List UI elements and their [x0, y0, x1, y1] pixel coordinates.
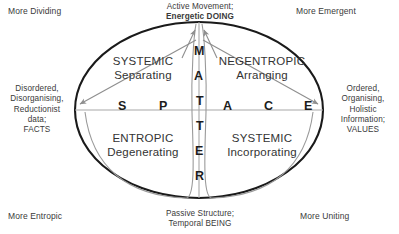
- space-letter-c: C: [264, 99, 273, 113]
- quadrant-top-left: SYSTEMIC Separating: [97, 54, 189, 83]
- label-right-middle: Ordered, Organising, Holistic Informatio…: [328, 84, 398, 135]
- quadrant-bottom-left: ENTROPIC Degenerating: [97, 131, 189, 160]
- label-left-line1: Disordered,: [2, 84, 72, 94]
- space-letter-a: A: [223, 99, 232, 113]
- label-top-center-line2: Energetic DOING: [139, 12, 261, 22]
- label-left-line3: Reductionist: [2, 105, 72, 115]
- quadrant-top-right: NEGENTROPIC Arranging: [211, 54, 313, 83]
- inner-curve-left: [85, 24, 196, 198]
- label-left-line5: FACTS: [2, 125, 72, 135]
- quadrant-top-left-title: SYSTEMIC: [97, 54, 189, 68]
- quadrant-top-right-subtitle: Arranging: [211, 68, 313, 82]
- label-right-line1: Ordered,: [328, 84, 398, 94]
- label-left-line4: data;: [2, 115, 72, 125]
- matter-letter-r: R: [195, 169, 204, 183]
- corner-label-top-right: More Emergent: [296, 6, 392, 17]
- label-right-line3: Holistic: [328, 105, 398, 115]
- label-right-line2: Organising,: [328, 94, 398, 104]
- quadrant-top-left-subtitle: Separating: [97, 68, 189, 82]
- quadrant-bottom-left-title: ENTROPIC: [97, 131, 189, 145]
- label-right-line5: VALUES: [328, 125, 398, 135]
- quadrant-top-right-title: NEGENTROPIC: [211, 54, 313, 68]
- label-left-line2: Disorganising,: [2, 94, 72, 104]
- matter-letter-t1: T: [196, 94, 204, 108]
- corner-label-top-left: More Dividing: [8, 6, 104, 17]
- quadrant-bottom-left-subtitle: Degenerating: [97, 145, 189, 159]
- label-bottom-center-line2: Temporal BEING: [139, 219, 261, 229]
- diagram-canvas: M A T T E R S P A C E SYSTEMIC Separatin…: [0, 0, 399, 234]
- matter-letter-t2: T: [196, 119, 204, 133]
- corner-label-bottom-right: More Uniting: [300, 211, 396, 222]
- label-right-line4: Information;: [328, 115, 398, 125]
- label-top-center-line1: Active Movement;: [139, 2, 261, 12]
- label-top-center: Active Movement; Energetic DOING: [139, 2, 261, 23]
- space-letter-p: P: [159, 99, 167, 113]
- matter-letter-e: E: [195, 144, 203, 158]
- space-letter-e: E: [304, 99, 312, 113]
- label-bottom-center-line1: Passive Structure;: [139, 209, 261, 219]
- quadrant-bottom-right: SYSTEMIC Incorporating: [211, 131, 313, 160]
- quadrant-bottom-right-title: SYSTEMIC: [211, 131, 313, 145]
- inner-curve-right: [202, 24, 313, 198]
- label-bottom-center: Passive Structure; Temporal BEING: [139, 209, 261, 230]
- label-left-middle: Disordered, Disorganising, Reductionist …: [2, 84, 72, 135]
- corner-label-bottom-left: More Entropic: [8, 211, 104, 222]
- quadrant-bottom-right-subtitle: Incorporating: [211, 145, 313, 159]
- space-letter-s: S: [118, 99, 126, 113]
- matter-letter-a: A: [194, 69, 203, 83]
- matter-letter-m: M: [194, 44, 204, 58]
